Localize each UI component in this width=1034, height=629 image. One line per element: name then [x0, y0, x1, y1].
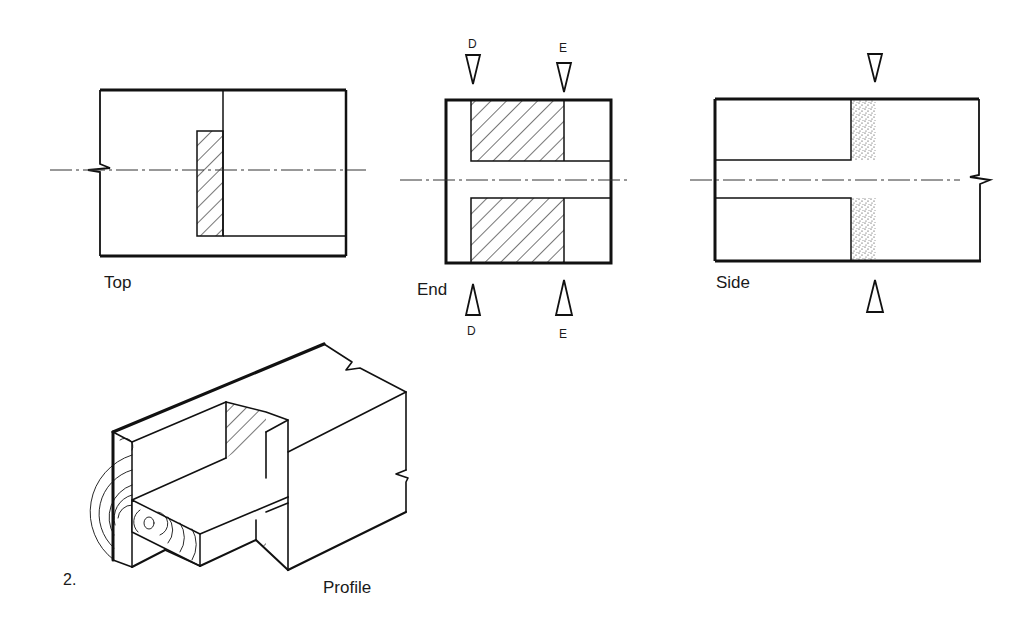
section-mark-d-bottom: D — [467, 324, 476, 338]
profile-isometric-view — [90, 344, 408, 570]
section-arrow-side-top-icon — [868, 54, 882, 82]
section-mark-d-top: D — [468, 37, 477, 51]
section-arrow-side-bottom-icon — [867, 280, 883, 312]
section-arrow-d-top-icon — [466, 55, 480, 84]
profile-view-label: Profile — [323, 578, 371, 597]
top-view-label: Top — [104, 273, 131, 292]
end-view-label: End — [417, 280, 447, 299]
section-mark-e-top: E — [559, 41, 567, 55]
section-arrow-e-top-icon — [557, 63, 571, 92]
joinery-drawing: Top D E D E End Side — [0, 0, 1034, 629]
section-mark-e-bottom: E — [559, 327, 567, 341]
end-view: D E D E End — [400, 37, 630, 341]
side-view: Side — [690, 54, 990, 312]
top-view: Top — [50, 90, 366, 292]
section-arrow-d-bottom-icon — [466, 284, 480, 315]
figure-number: 2. — [63, 571, 76, 588]
side-view-label: Side — [716, 273, 750, 292]
section-arrow-e-bottom-icon — [556, 280, 572, 315]
